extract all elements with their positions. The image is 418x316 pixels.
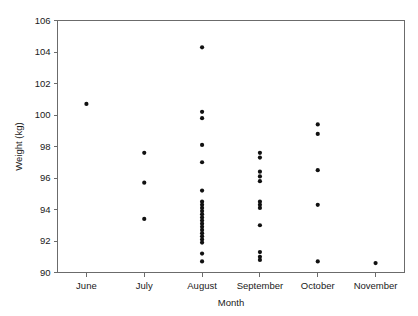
y-tick-label: 90 xyxy=(40,267,51,278)
data-point xyxy=(200,189,204,193)
x-axis-ticks: JuneJulyAugustSeptemberOctoberNovember xyxy=(76,273,397,291)
data-point xyxy=(200,110,204,114)
data-point xyxy=(258,223,262,227)
data-point xyxy=(316,203,320,207)
data-point xyxy=(200,252,204,256)
data-point xyxy=(200,160,204,164)
data-point xyxy=(258,206,262,210)
data-point xyxy=(84,102,88,106)
x-tick-label: October xyxy=(301,280,335,291)
data-point xyxy=(316,168,320,172)
data-point xyxy=(200,45,204,49)
data-point xyxy=(258,170,262,174)
data-point xyxy=(258,250,262,254)
y-tick-label: 92 xyxy=(40,235,51,246)
y-tick-label: 100 xyxy=(35,109,51,120)
x-tick-label: September xyxy=(237,280,283,291)
y-tick-label: 98 xyxy=(40,141,51,152)
y-tick-label: 104 xyxy=(35,46,51,57)
data-point xyxy=(142,151,146,155)
data-point xyxy=(373,261,377,265)
data-point xyxy=(200,240,204,244)
data-point xyxy=(142,181,146,185)
plot-border xyxy=(58,21,405,273)
data-point xyxy=(200,116,204,120)
y-tick-label: 94 xyxy=(40,204,51,215)
y-axis-ticks: 9092949698100102104106 xyxy=(35,15,58,278)
x-tick-label: November xyxy=(354,280,398,291)
data-point xyxy=(316,122,320,126)
data-point xyxy=(258,151,262,155)
data-point xyxy=(142,217,146,221)
plot-canvas: 9092949698100102104106 JuneJulyAugustSep… xyxy=(0,0,418,316)
data-point xyxy=(258,179,262,183)
data-point xyxy=(200,259,204,263)
scatter-plot-figure: 9092949698100102104106 JuneJulyAugustSep… xyxy=(0,0,418,316)
data-point xyxy=(316,259,320,263)
y-tick-label: 102 xyxy=(35,78,51,89)
x-tick-label: August xyxy=(187,280,217,291)
data-point xyxy=(200,143,204,147)
x-tick-label: June xyxy=(76,280,97,291)
x-tick-label: July xyxy=(136,280,153,291)
data-point xyxy=(316,132,320,136)
data-point xyxy=(258,258,262,262)
data-points-layer xyxy=(84,45,377,265)
y-tick-label: 106 xyxy=(35,15,51,26)
data-point xyxy=(258,174,262,178)
plot-frame xyxy=(58,21,405,273)
data-point xyxy=(258,155,262,159)
x-axis-title: Month xyxy=(218,297,244,308)
y-tick-label: 96 xyxy=(40,172,51,183)
y-axis-title: Weight (kg) xyxy=(13,122,24,170)
